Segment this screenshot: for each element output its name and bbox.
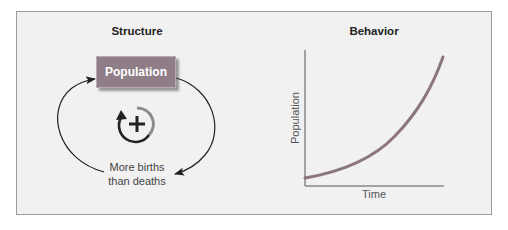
structure-diagram xyxy=(0,0,508,230)
outflow-arc-arrow xyxy=(175,78,215,174)
population-growth-curve xyxy=(305,57,443,178)
population-stock: Population xyxy=(96,56,176,88)
flow-label: More births than deaths xyxy=(108,160,166,188)
behavior-title: Behavior xyxy=(349,25,398,37)
y-axis-label: Population xyxy=(289,92,301,144)
flow-label-line2: than deaths xyxy=(108,174,166,188)
flow-label-line1: More births xyxy=(108,160,166,174)
reinforcing-loop-icon xyxy=(116,108,153,142)
inflow-arc-arrow xyxy=(58,79,104,172)
x-axis-label: Time xyxy=(362,188,386,200)
population-stock-label: Population xyxy=(105,65,167,79)
